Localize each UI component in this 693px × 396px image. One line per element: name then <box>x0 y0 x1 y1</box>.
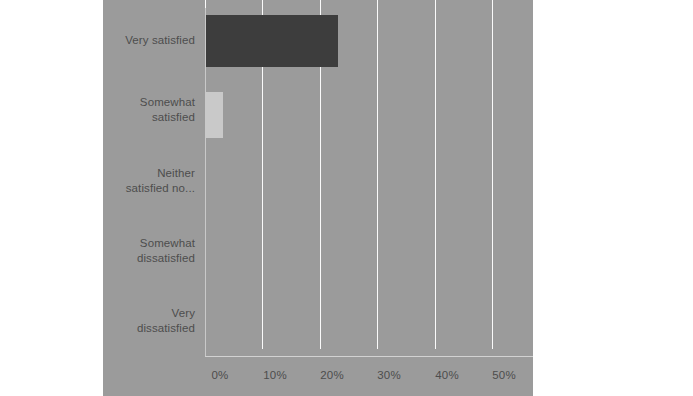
y-tick-label-line: Very satisfied <box>125 34 195 46</box>
y-tick-label-2: Neither satisfied no... <box>103 166 195 196</box>
x-tick-label: 20% <box>309 369 355 381</box>
x-tick-label: 10% <box>252 369 298 381</box>
x-tick-label: 50% <box>481 369 527 381</box>
y-tick-label-1: Somewhat satisfied <box>103 95 195 125</box>
gridline <box>435 0 436 349</box>
y-tick-label-line: satisfied no... <box>103 181 195 196</box>
x-tick-label: 40% <box>424 369 470 381</box>
x-tick-label: 0% <box>197 369 243 381</box>
y-tick-label-line: Somewhat <box>103 236 195 251</box>
y-tick-label-0: Very satisfied <box>103 33 195 48</box>
y-tick-label-line: dissatisfied <box>103 321 195 336</box>
y-tick-label-line: satisfied <box>103 110 195 125</box>
bar-somewhat-satisfied[interactable] <box>206 92 223 138</box>
gridline <box>492 0 493 349</box>
bar-chart: Very satisfied Somewhat satisfied Neithe… <box>103 0 533 396</box>
y-tick-label-line: Very <box>103 306 195 321</box>
y-tick-label-3: Somewhat dissatisfied <box>103 236 195 266</box>
y-tick-label-4: Very dissatisfied <box>103 306 195 336</box>
gridline <box>377 0 378 349</box>
x-tick-label: 30% <box>366 369 412 381</box>
y-tick-label-line: Neither <box>103 166 195 181</box>
bar-very-satisfied[interactable] <box>206 15 338 67</box>
y-tick-label-line: dissatisfied <box>103 251 195 266</box>
y-tick-label-line: Somewhat <box>103 95 195 110</box>
x-axis-line <box>205 356 533 357</box>
